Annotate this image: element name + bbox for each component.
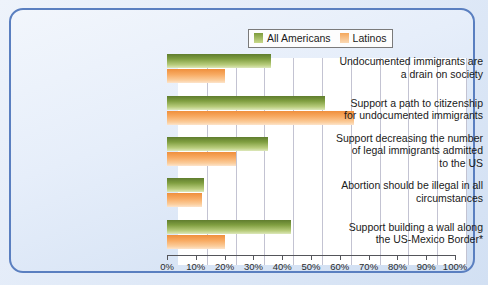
x-axis-tick bbox=[282, 255, 283, 260]
legend-swatch-all-americans bbox=[254, 33, 263, 43]
chart-frame: All Americans Latinos 0%10%20%30%40%50%6… bbox=[0, 0, 488, 285]
x-axis-tick-label: 10% bbox=[186, 261, 205, 272]
bar-all-americans bbox=[167, 178, 204, 192]
category-label: Support building a wall alongthe US-Mexi… bbox=[322, 221, 488, 246]
x-axis-tick bbox=[311, 255, 312, 260]
category-label-line: Support building a wall along bbox=[322, 221, 483, 234]
bar-all-americans bbox=[167, 96, 325, 110]
bar-all-americans bbox=[167, 137, 268, 151]
category-label: Undocumented immigrants area drain on so… bbox=[322, 55, 488, 80]
x-axis-tick-label: 80% bbox=[388, 261, 407, 272]
category-label-line: Support decreasing the number bbox=[322, 132, 483, 145]
x-axis-tick bbox=[340, 255, 341, 260]
category-label-line: the US-Mexico Border* bbox=[322, 233, 483, 246]
category-label-line: Undocumented immigrants are bbox=[322, 55, 483, 68]
x-axis-tick-label: 70% bbox=[359, 261, 378, 272]
legend-item-all-americans: All Americans bbox=[254, 32, 331, 44]
x-axis-tick-label: 0% bbox=[160, 261, 174, 272]
x-axis-tick-label: 20% bbox=[215, 261, 234, 272]
gridline bbox=[293, 58, 294, 265]
bar-all-americans bbox=[167, 54, 271, 68]
x-axis-tick-label: 40% bbox=[273, 261, 292, 272]
category-label: Abortion should be illegal in allcircums… bbox=[322, 179, 488, 204]
category-label-line: for undocumented immigrants bbox=[322, 109, 483, 122]
category-label-line: a drain on society bbox=[322, 68, 483, 81]
category-label-line: Abortion should be illegal in all bbox=[322, 179, 483, 192]
chart-legend: All Americans Latinos bbox=[248, 29, 393, 48]
x-axis-tick-label: 100% bbox=[443, 261, 467, 272]
x-axis-tick-label: 50% bbox=[301, 261, 320, 272]
bar-latinos bbox=[167, 193, 202, 207]
category-label-line: to the US bbox=[322, 157, 483, 170]
legend-item-latinos: Latinos bbox=[340, 32, 387, 44]
legend-swatch-latinos bbox=[340, 33, 349, 43]
x-axis-tick-label: 90% bbox=[417, 261, 436, 272]
category-label: Support a path to citizenshipfor undocum… bbox=[322, 97, 488, 122]
category-label-line: of legal immigrants admitted bbox=[322, 144, 483, 157]
legend-label-all-americans: All Americans bbox=[267, 32, 331, 44]
category-label-line: circumstances bbox=[322, 192, 483, 205]
x-axis-tick bbox=[167, 255, 168, 260]
bar-latinos bbox=[167, 152, 236, 166]
x-axis-tick-label: 60% bbox=[330, 261, 349, 272]
gridline bbox=[264, 58, 265, 265]
x-axis-tick bbox=[225, 255, 226, 260]
legend-label-latinos: Latinos bbox=[353, 32, 387, 44]
x-axis-tick-label: 30% bbox=[244, 261, 263, 272]
x-axis-tick bbox=[369, 255, 370, 260]
x-axis-tick bbox=[397, 255, 398, 260]
bar-all-americans bbox=[167, 220, 291, 234]
x-axis-tick bbox=[253, 255, 254, 260]
x-axis-tick bbox=[455, 255, 456, 260]
category-label: Support decreasing the numberof legal im… bbox=[322, 132, 488, 170]
x-axis-tick bbox=[426, 255, 427, 260]
category-label-line: Support a path to citizenship bbox=[322, 97, 483, 110]
bar-latinos bbox=[167, 235, 225, 249]
bar-latinos bbox=[167, 69, 225, 83]
x-axis-tick bbox=[196, 255, 197, 260]
